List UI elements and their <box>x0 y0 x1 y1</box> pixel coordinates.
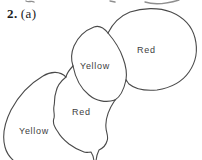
scan-artifacts <box>26 0 179 4</box>
region-outlines <box>4 9 197 160</box>
scanned-figure-page: 2.(a) Red Yellow Red <box>0 0 202 160</box>
region-label-red-lower: Red <box>72 107 91 117</box>
border-yellow-mid-red-low <box>73 66 115 101</box>
border-red-top-yellow-mid <box>108 33 126 80</box>
scan-artifact-mark <box>145 0 179 4</box>
region-label-red-top-right: Red <box>137 45 156 55</box>
map-diagram <box>0 0 202 160</box>
scan-artifact-mark <box>26 1 34 2</box>
region-outline-bottom-yellow <box>4 72 66 160</box>
scan-artifact-mark <box>110 1 115 2</box>
region-label-yellow-bottom-left: Yellow <box>19 126 49 136</box>
region-label-yellow-middle: Yellow <box>80 61 110 71</box>
region-outline-middle-yellow-right <box>115 80 126 100</box>
